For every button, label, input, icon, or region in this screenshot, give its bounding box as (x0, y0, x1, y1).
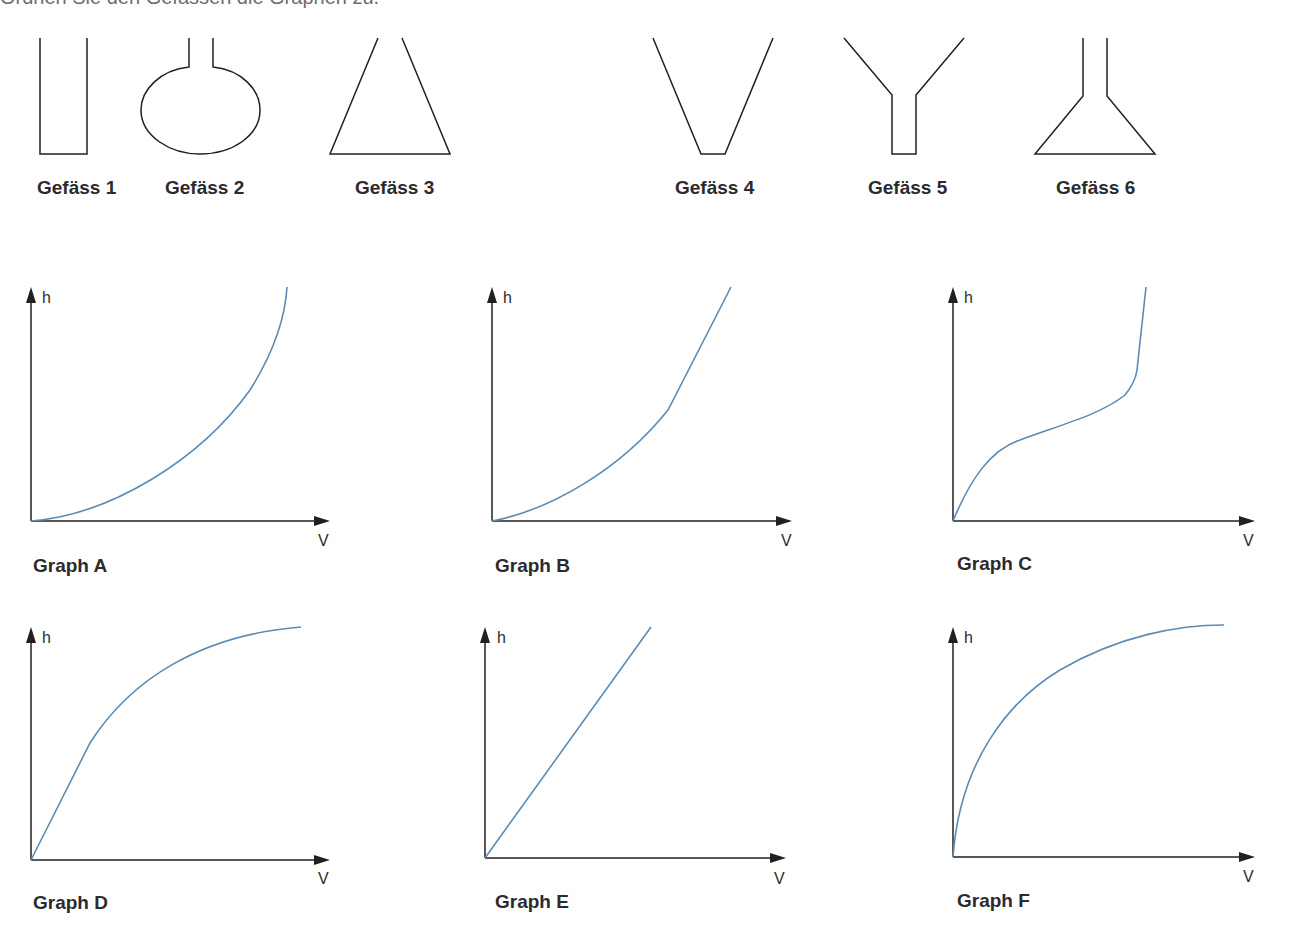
graph-f-axes (948, 627, 1255, 862)
graph-e-curve (485, 627, 651, 858)
graph-b-axes (487, 287, 792, 526)
graph-f-curve (953, 625, 1224, 857)
graph-a-curve (31, 287, 287, 521)
graph-a-y-label: h (42, 289, 51, 307)
graph-d-x-label: V (318, 870, 329, 888)
graph-c-y-label: h (964, 289, 973, 307)
graph-d-label: Graph D (33, 892, 108, 914)
graph-e-axes (480, 627, 786, 863)
graph-d-curve (31, 627, 301, 860)
graph-b-label: Graph B (495, 555, 570, 577)
graph-e-y-label: h (497, 629, 506, 647)
graph-f-x-label: V (1243, 868, 1254, 886)
graph-drawings (0, 0, 1295, 945)
graph-c-curve (953, 287, 1146, 521)
graph-d-axes (26, 627, 330, 865)
graph-d-y-label: h (42, 629, 51, 647)
graph-b-y-label: h (503, 289, 512, 307)
graph-c-axes (948, 287, 1255, 526)
graph-a-x-label: V (318, 532, 329, 550)
graph-f-y-label: h (964, 629, 973, 647)
graph-e-label: Graph E (495, 891, 569, 913)
graph-e-x-label: V (774, 870, 785, 888)
graph-b-curve (492, 287, 731, 521)
graph-a-label: Graph A (33, 555, 107, 577)
graph-c-x-label: V (1243, 532, 1254, 550)
graph-c-label: Graph C (957, 553, 1032, 575)
graph-b-x-label: V (781, 532, 792, 550)
graph-f-label: Graph F (957, 890, 1030, 912)
graph-a-axes (26, 287, 330, 526)
